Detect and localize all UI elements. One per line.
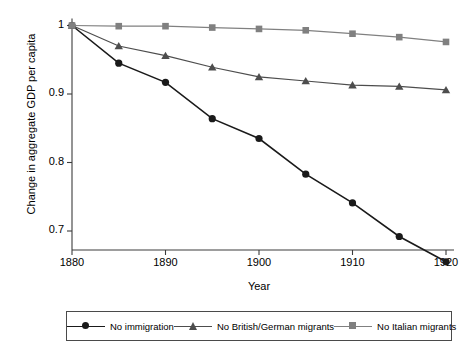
square-marker <box>162 23 169 30</box>
circle-marker <box>162 79 169 86</box>
square-marker <box>349 322 356 329</box>
legend-entry: No Italian migrants <box>334 320 456 332</box>
square-marker <box>69 22 76 29</box>
square-marker <box>443 39 450 46</box>
triangle-marker <box>115 42 123 49</box>
circle-marker <box>349 199 356 206</box>
circle-marker <box>396 233 403 240</box>
legend-key <box>67 320 105 332</box>
x-axis-title: Year <box>72 280 446 292</box>
circle-marker <box>302 171 309 178</box>
square-marker <box>256 26 263 33</box>
legend-label: No Italian migrants <box>377 321 456 332</box>
square-marker <box>302 27 309 34</box>
triangle-marker <box>189 322 197 330</box>
square-marker <box>349 30 356 37</box>
circle-marker <box>82 322 89 329</box>
legend-entry: No British/German migrants <box>174 320 334 332</box>
square-marker <box>115 23 122 30</box>
legend-key <box>174 320 212 332</box>
plot-area <box>0 0 467 354</box>
circle-marker <box>209 115 216 122</box>
legend-label: No immigration <box>110 321 174 332</box>
legend-key <box>334 320 372 332</box>
circle-marker <box>442 258 449 265</box>
chart-legend: No immigrationNo British/German migrants… <box>66 311 452 341</box>
legend-label: No British/German migrants <box>217 321 334 332</box>
chart-figure: Change in aggregate GDP per capita 0.70.… <box>0 0 467 354</box>
series-line-0 <box>72 26 446 262</box>
square-marker <box>396 34 403 41</box>
circle-marker <box>255 135 262 142</box>
legend-entry: No immigration <box>67 320 174 332</box>
series-line-1 <box>72 26 446 90</box>
circle-marker <box>115 60 122 67</box>
square-marker <box>209 24 216 31</box>
